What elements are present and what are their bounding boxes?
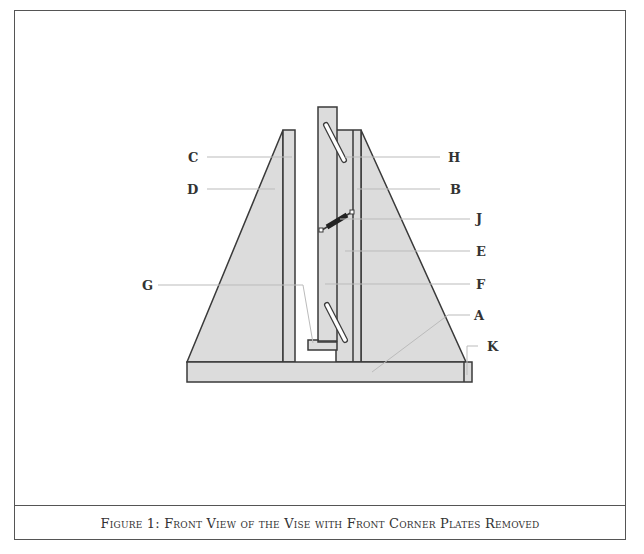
label-f: F [476, 277, 486, 292]
label-a: A [473, 308, 485, 323]
label-b: B [450, 182, 461, 197]
label-h: H [448, 150, 460, 165]
label-j: J [475, 211, 482, 226]
caption-box: Figure 1: Front View of the Vise with Fr… [14, 505, 626, 540]
part-d-left-plate [187, 130, 283, 362]
figure-caption: Figure 1: Front View of the Vise with Fr… [101, 516, 540, 531]
label-k: K [487, 339, 499, 354]
label-c: C [188, 150, 198, 165]
part-c-left-strip [283, 130, 295, 362]
label-e: E [476, 244, 486, 259]
label-g: G [142, 278, 153, 293]
vise-diagram: C D H B J E F G A K [0, 0, 644, 554]
part-a-base [187, 362, 472, 382]
label-d: D [187, 182, 198, 197]
